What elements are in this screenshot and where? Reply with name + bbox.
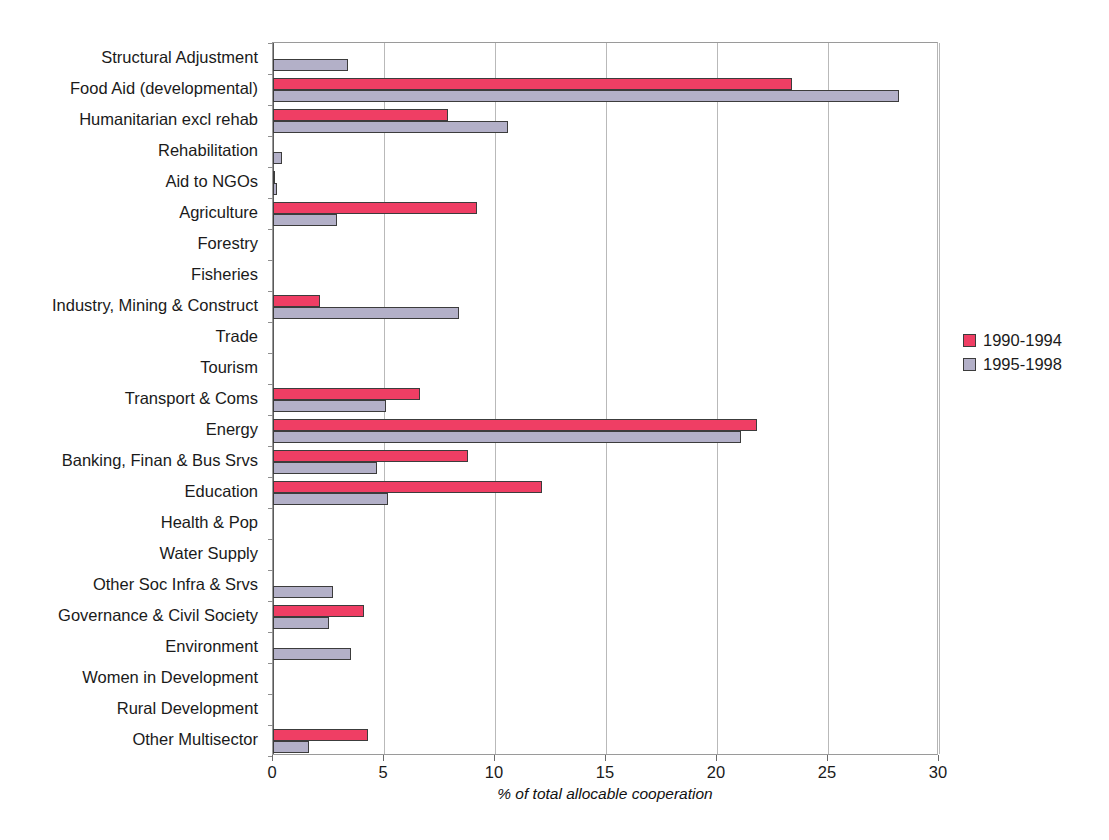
y-axis-tick (268, 136, 273, 137)
bar-1 (273, 462, 377, 474)
y-axis-tick (268, 167, 273, 168)
bar-0 (273, 481, 542, 493)
y-axis-label: Other Soc Infra & Srvs (93, 576, 258, 593)
y-axis-tick (268, 105, 273, 106)
x-axis-ticks: 051015202530 (272, 755, 938, 785)
y-axis-tick (268, 229, 273, 230)
bar-row (273, 322, 937, 353)
legend-label: 1990-1994 (983, 331, 1062, 350)
bar-row (273, 570, 937, 601)
x-axis-tick-label: 15 (596, 763, 614, 782)
bar-row (273, 415, 937, 446)
bar-row (273, 384, 937, 415)
y-axis-tick (268, 632, 273, 633)
chart-legend: 1990-19941995-1998 (963, 328, 1062, 376)
bar-row (273, 725, 937, 756)
bar-row (273, 508, 937, 539)
x-axis-tick-mark (272, 755, 273, 761)
x-axis-tick-mark (938, 755, 939, 761)
bar-0 (273, 202, 477, 214)
x-axis-tick-mark (605, 755, 606, 761)
bar-1 (273, 121, 508, 133)
bar-row (273, 198, 937, 229)
bar-1 (273, 431, 741, 443)
y-axis-label: Structural Adjustment (101, 49, 258, 66)
bar-row (273, 43, 937, 74)
y-axis-label: Trade (216, 328, 259, 345)
x-axis-title: % of total allocable cooperation (272, 785, 938, 803)
y-axis-tick (268, 477, 273, 478)
y-axis-tick (268, 291, 273, 292)
y-axis-tick (268, 74, 273, 75)
bar-row (273, 694, 937, 725)
legend-label: 1995-1998 (983, 355, 1062, 374)
bar-row (273, 291, 937, 322)
bar-1 (273, 90, 899, 102)
y-axis-label: Humanitarian excl rehab (79, 111, 258, 128)
y-axis-label: Agriculture (179, 204, 258, 221)
bar-0 (273, 729, 368, 741)
bar-row (273, 477, 937, 508)
y-axis-label: Fisheries (191, 266, 258, 283)
y-axis-tick (268, 539, 273, 540)
y-axis-tick (268, 260, 273, 261)
bar-row (273, 260, 937, 291)
bar-row (273, 167, 937, 198)
y-axis-label: Health & Pop (161, 514, 258, 531)
chart-figure: Structural AdjustmentFood Aid (developme… (0, 0, 1109, 840)
bar-0 (273, 388, 420, 400)
y-axis-label: Transport & Coms (125, 390, 258, 407)
bar-0 (273, 109, 448, 121)
bar-1 (273, 152, 282, 164)
bar-0 (273, 78, 792, 90)
gridline-30 (939, 43, 940, 754)
legend-swatch-icon (963, 334, 976, 347)
x-axis-tick-mark (827, 755, 828, 761)
bar-0 (273, 295, 320, 307)
y-axis-tick (268, 322, 273, 323)
bar-1 (273, 400, 386, 412)
legend-item[interactable]: 1990-1994 (963, 328, 1062, 352)
bar-1 (273, 183, 277, 195)
bar-row (273, 105, 937, 136)
x-axis-tick-mark (716, 755, 717, 761)
legend-item[interactable]: 1995-1998 (963, 352, 1062, 376)
y-axis-label: Water Supply (160, 545, 258, 562)
bar-0 (273, 450, 468, 462)
bar-row (273, 663, 937, 694)
y-axis-label: Rehabilitation (158, 142, 258, 159)
bar-0 (273, 605, 364, 617)
bar-row (273, 74, 937, 105)
y-axis-label: Forestry (197, 235, 258, 252)
y-axis-label: Aid to NGOs (165, 173, 258, 190)
x-axis-tick-mark (383, 755, 384, 761)
bar-1 (273, 214, 337, 226)
y-axis-tick (268, 663, 273, 664)
y-axis-tick (268, 725, 273, 726)
x-axis-tick-label: 20 (707, 763, 725, 782)
bar-row (273, 136, 937, 167)
bar-row (273, 353, 937, 384)
y-axis-category-labels: Structural AdjustmentFood Aid (developme… (0, 42, 266, 755)
bar-1 (273, 741, 309, 753)
x-axis-tick-label: 5 (378, 763, 387, 782)
bar-1 (273, 617, 329, 629)
plot-area (272, 42, 938, 755)
bar-row (273, 446, 937, 477)
bar-row (273, 601, 937, 632)
y-axis-label: Food Aid (developmental) (70, 80, 258, 97)
y-axis-label: Banking, Finan & Bus Srvs (62, 452, 258, 469)
y-axis-label: Industry, Mining & Construct (52, 297, 258, 314)
y-axis-tick (268, 43, 273, 44)
y-axis-label: Environment (165, 638, 258, 655)
bar-row (273, 632, 937, 663)
x-axis-tick-label: 25 (818, 763, 836, 782)
bar-1 (273, 493, 388, 505)
bar-0 (273, 419, 757, 431)
y-axis-tick (268, 694, 273, 695)
y-axis-label: Rural Development (117, 700, 258, 717)
bar-0 (273, 171, 275, 183)
bar-1 (273, 648, 351, 660)
legend-swatch-icon (963, 358, 976, 371)
bar-1 (273, 586, 333, 598)
